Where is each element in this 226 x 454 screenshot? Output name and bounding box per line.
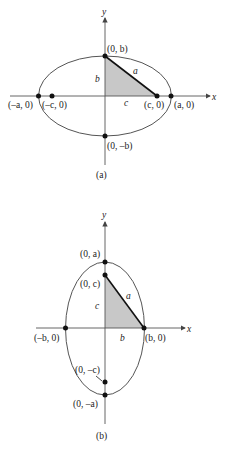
point-right-vertex: [142, 326, 147, 331]
label-left-vertex: (–b, 0): [34, 333, 59, 344]
triangle-label-horizontal: c: [124, 98, 129, 108]
y-axis-label: y: [101, 210, 107, 220]
point-right-vertex: [169, 94, 174, 99]
label-bottom-vertex: (0, –b): [107, 141, 132, 152]
label-top-vertex: (0, a): [80, 249, 100, 260]
point-left-vertex: [63, 326, 68, 331]
point-top-vertex: [103, 260, 108, 265]
figure-b: y x (0, a) (0, c) (–b, 0) (b, 0) (0, –c)…: [34, 210, 192, 442]
label-right-vertex: (b, 0): [145, 333, 166, 344]
x-axis-label: x: [186, 324, 192, 334]
point-top-vertex: [103, 54, 108, 59]
point-bottom-vertex: [103, 393, 108, 398]
point-right-focus: [155, 94, 160, 99]
label-bottom-focus: (0, –c): [75, 365, 100, 376]
leader-line: [96, 376, 102, 381]
label-right-vertex: (a, 0): [174, 100, 194, 111]
x-axis-label: x: [211, 92, 217, 102]
label-right-focus: (c, 0): [144, 100, 164, 111]
triangle-label-vertical: c: [95, 301, 100, 311]
point-bottom-focus: [103, 380, 108, 385]
point-left-focus: [50, 94, 55, 99]
triangle-label-hypotenuse: a: [133, 66, 138, 76]
label-top-vertex: (0, b): [107, 44, 128, 55]
figure-a: y x (0, b) (0, –b) (–a, 0) (–c, 0) (c, 0…: [8, 7, 217, 181]
label-left-vertex: (–a, 0): [8, 100, 33, 111]
triangle-label-hypotenuse: a: [126, 291, 131, 301]
label-left-focus: (–c, 0): [42, 100, 67, 111]
triangle-label-horizontal: b: [120, 333, 125, 343]
label-top-focus: (0, c): [80, 279, 100, 290]
point-bottom-vertex: [103, 134, 108, 139]
ellipse-diagrams: y x (0, b) (0, –b) (–a, 0) (–c, 0) (c, 0…: [0, 0, 226, 454]
point-left-vertex: [36, 94, 41, 99]
y-axis-label: y: [101, 7, 107, 17]
triangle-label-vertical: b: [95, 74, 100, 84]
caption-b: (b): [96, 431, 107, 442]
point-top-focus: [103, 273, 108, 278]
caption-a: (a): [96, 170, 107, 181]
label-bottom-vertex: (0, –a): [73, 399, 98, 410]
